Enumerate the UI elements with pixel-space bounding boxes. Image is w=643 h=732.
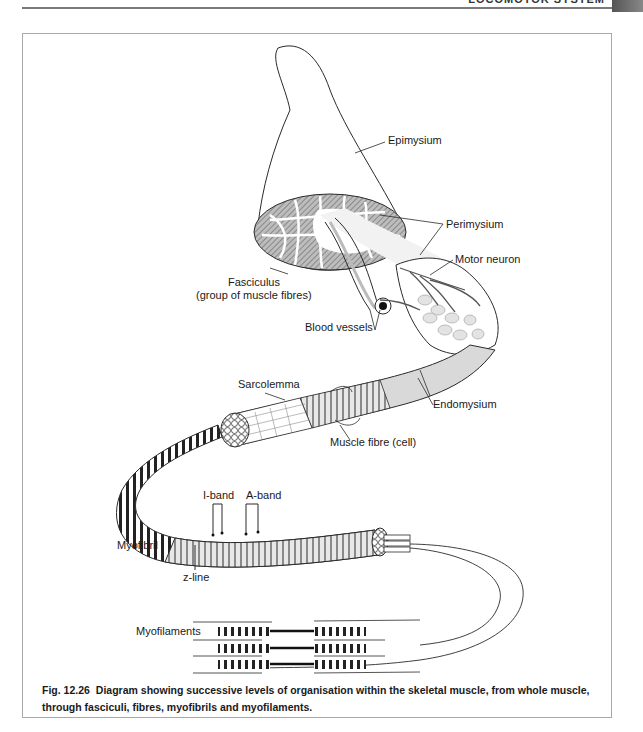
label-myofilaments: Myofilaments — [136, 625, 201, 638]
label-myofibril: Myofibril — [117, 539, 158, 552]
myofilament-row — [218, 644, 366, 653]
label-muscle-fibre: Muscle fibre (cell) — [330, 436, 416, 449]
figure-caption-text: Diagram showing successive levels of org… — [42, 684, 590, 713]
label-epimysium: Epimysium — [388, 134, 442, 147]
myofilaments — [193, 620, 420, 673]
label-blood-vessels: Blood vessels — [305, 321, 373, 334]
label-i-band: I-band — [203, 489, 234, 502]
label-a-band: A-band — [246, 489, 281, 502]
label-endomysium: Endomysium — [433, 398, 497, 411]
figure-number: Fig. 12.26 — [42, 684, 90, 696]
label-perimysium: Perimysium — [446, 218, 503, 231]
muscle-fibre — [221, 345, 495, 447]
myofilament-row — [218, 627, 366, 636]
label-z-line: z-line — [183, 571, 209, 584]
label-motor-neuron: Motor neuron — [455, 253, 520, 266]
figure-caption: Fig. 12.26Diagram showing successive lev… — [42, 682, 602, 716]
label-sarcolemma: Sarcolemma — [238, 378, 300, 391]
label-fasciculus-note: (group of muscle fibres) — [196, 289, 312, 302]
muscle-diagram — [0, 0, 643, 732]
label-fasciculus: Fasciculus — [228, 276, 280, 289]
